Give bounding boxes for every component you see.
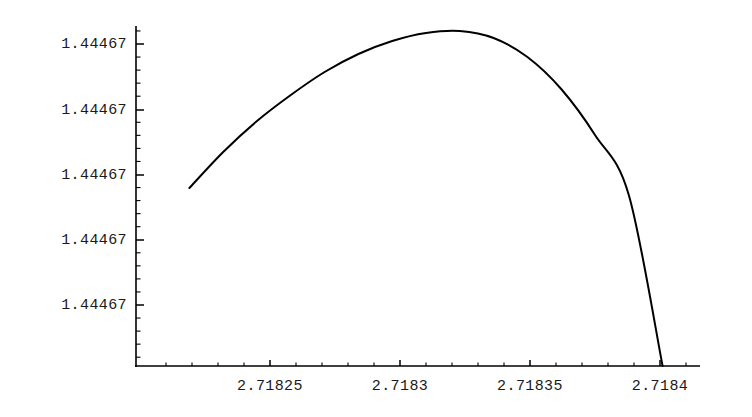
x-tick-label: 2.7183	[372, 379, 428, 394]
y-tick-label: 1.44467	[61, 233, 127, 248]
y-tick-label: 1.44467	[61, 37, 127, 52]
curve-path	[189, 31, 662, 366]
x-tick-label: 2.7184	[632, 379, 688, 394]
x-tick-label: 2.71835	[497, 379, 563, 394]
x-tick-label: 2.71825	[237, 379, 303, 394]
y-tick-label: 1.44467	[61, 103, 127, 118]
data-curve	[189, 31, 662, 366]
plot-canvas: 1.444671.444671.444671.444671.44467 2.71…	[0, 0, 752, 417]
plot-graphics	[0, 0, 752, 417]
axes-group	[135, 26, 700, 367]
y-tick-label: 1.44467	[61, 298, 127, 313]
y-tick-label: 1.44467	[61, 168, 127, 183]
